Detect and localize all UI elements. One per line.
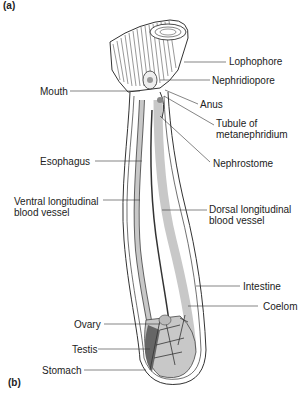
label-ventral-1: Ventral longitudinal: [14, 196, 99, 207]
label-testis: Testis: [72, 344, 98, 355]
label-dorsal-2: blood vessel: [209, 215, 265, 226]
label-nephrostome: Nephrostome: [213, 158, 273, 169]
panel-label-b: (b): [8, 377, 21, 388]
label-tubule-1: Tubule of: [216, 118, 257, 129]
label-anus: Anus: [200, 99, 223, 110]
label-tubule-2: metanephridium: [216, 129, 288, 140]
label-stomach: Stomach: [42, 365, 81, 376]
label-ovary: Ovary: [74, 319, 101, 330]
label-dorsal-1: Dorsal longitudinal: [209, 204, 291, 215]
label-nephridiopore: Nephridiopore: [212, 75, 275, 86]
lophophore-drawing: [110, 20, 188, 92]
label-lophophore: Lophophore: [229, 56, 282, 67]
trunk-drawing: [123, 92, 206, 385]
label-intestine: Intestine: [243, 281, 281, 292]
panel-label-a: (a): [3, 0, 15, 11]
label-esophagus: Esophagus: [40, 156, 90, 167]
label-ventral-2: blood vessel: [14, 207, 70, 218]
label-mouth: Mouth: [40, 86, 68, 97]
label-coelom: Coelom: [263, 301, 297, 312]
